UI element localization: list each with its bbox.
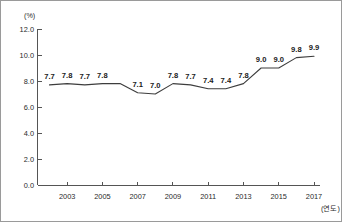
y-tick-label: 0.0 xyxy=(24,181,34,190)
data-point-label: 9.0 xyxy=(273,55,284,64)
data-point-label: 7.8 xyxy=(238,71,249,80)
data-point-label: 7.7 xyxy=(79,72,90,81)
data-point-label: 7.8 xyxy=(97,71,108,80)
x-tick-label: 2003 xyxy=(59,192,75,201)
x-tick-label: 2005 xyxy=(94,192,110,201)
x-axis-tick-labels: 20032005200720092011201320152017 xyxy=(59,192,322,201)
data-point-label: 7.7 xyxy=(44,72,55,81)
data-point-label: 9.9 xyxy=(309,43,320,52)
data-point-label: 7.8 xyxy=(168,71,179,80)
x-tick-label: 2015 xyxy=(271,192,287,201)
data-point-label: 9.0 xyxy=(256,55,267,64)
data-point-label: 7.1 xyxy=(132,80,143,89)
line-chart: (%) 12.010.08.06.04.02.00.0 200320052007… xyxy=(1,1,342,222)
x-tick-label: 2013 xyxy=(235,192,251,201)
y-tick-label: 8.0 xyxy=(24,77,34,86)
y-tick-label: 2.0 xyxy=(24,155,34,164)
data-point-label: 7.4 xyxy=(203,76,214,85)
y-tick-label: 4.0 xyxy=(24,129,34,138)
data-point-label: 7.0 xyxy=(150,81,161,90)
data-point-label: 7.4 xyxy=(221,76,232,85)
data-point-label: 7.8 xyxy=(62,71,73,80)
data-point-labels: 7.77.87.77.87.17.07.87.77.47.47.89.09.09… xyxy=(44,43,319,90)
y-tick-label: 10.0 xyxy=(20,51,34,60)
x-tick-label: 2017 xyxy=(306,192,322,201)
x-tick-label: 2009 xyxy=(165,192,181,201)
y-unit-label: (%) xyxy=(24,11,35,20)
y-axis-tick-labels: 12.010.08.06.04.02.00.0 xyxy=(20,25,34,190)
x-axis-caption: (연도) xyxy=(321,204,340,213)
x-tick-label: 2007 xyxy=(129,192,145,201)
data-point-label: 9.8 xyxy=(291,45,302,54)
y-tick-label: 6.0 xyxy=(24,103,34,112)
chart-page: (%) 12.010.08.06.04.02.00.0 200320052007… xyxy=(0,0,342,222)
x-tick-label: 2011 xyxy=(200,192,216,201)
unit-label-group: (%) xyxy=(24,11,35,20)
y-tick-label: 12.0 xyxy=(20,25,34,34)
data-point-label: 7.7 xyxy=(185,72,196,81)
